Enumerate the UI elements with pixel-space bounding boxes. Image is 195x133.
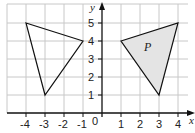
x-axis-label: x	[188, 114, 194, 126]
origin-label: 0	[92, 115, 98, 127]
x-tick-label: -1	[77, 118, 87, 130]
x-axis	[7, 110, 195, 117]
x-tick-label: 3	[156, 118, 162, 130]
y-tick-label: 4	[88, 35, 94, 47]
x-tick-label: 1	[118, 118, 124, 130]
x-tick-label: 2	[137, 118, 143, 130]
y-arrow-icon	[99, 2, 105, 10]
x-tick-label: -3	[39, 118, 49, 130]
y-tick-label: 3	[88, 53, 94, 65]
x-tick-label: -2	[58, 118, 68, 130]
coordinate-grid: -4 -3 -2 -1 0 1 2 3 4 x 1 2 3 4 5 y P	[0, 0, 195, 133]
shape-p-label: P	[143, 40, 152, 54]
y-tick-label: 5	[88, 17, 94, 29]
x-tick-label: 4	[175, 118, 181, 130]
y-tick-label: 2	[88, 71, 94, 83]
y-tick-label: 1	[88, 89, 94, 101]
y-axis-label: y	[89, 1, 95, 13]
x-tick-label: -4	[20, 118, 30, 130]
